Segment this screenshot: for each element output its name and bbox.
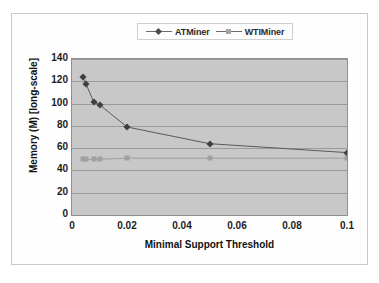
y-tick-label: 140 [42, 53, 68, 63]
x-tick-label: 0.08 [282, 220, 301, 231]
legend-entry-wtiminer[interactable]: WTIMiner [216, 27, 285, 37]
series-line-atminer [83, 77, 347, 153]
plot-area [71, 58, 348, 216]
y-tick-label: 40 [42, 164, 68, 174]
chart-legend: ATMiner WTIMiner [137, 23, 293, 40]
legend-label-atminer: ATMiner [175, 27, 210, 37]
data-point-wtiminer [83, 157, 88, 162]
data-point-wtiminer [207, 156, 212, 161]
data-point-wtiminer [92, 157, 97, 162]
data-point-wtiminer [125, 156, 130, 161]
x-axis-title: Minimal Support Threshold [71, 239, 348, 250]
series-line-wtiminer [83, 158, 347, 159]
y-tick-label: 20 [42, 187, 68, 197]
y-tick-label: 0 [42, 209, 68, 219]
legend-entry-atminer[interactable]: ATMiner [146, 27, 210, 37]
legend-marker-diamond-icon [146, 27, 172, 36]
x-tick-label: 0.02 [117, 220, 136, 231]
y-axis-tick-labels: 020406080100120140 [38, 58, 68, 216]
y-tick-label: 100 [42, 98, 68, 108]
y-tick-label: 60 [42, 142, 68, 152]
legend-label-wtiminer: WTIMiner [245, 27, 285, 37]
series-lines [72, 59, 347, 215]
y-tick-label: 80 [42, 120, 68, 130]
data-point-wtiminer [345, 156, 349, 161]
legend-marker-square-icon [216, 27, 242, 36]
chart-frame: ATMiner WTIMiner 020406080100120140 00.0… [11, 13, 368, 265]
x-tick-label: 0.04 [172, 220, 191, 231]
x-tick-label: 0 [69, 220, 75, 231]
y-tick-label: 120 [42, 75, 68, 85]
y-axis-title: Memory (M) [long-scale] [28, 46, 39, 186]
x-tick-label: 0.1 [340, 220, 354, 231]
gridline [72, 215, 347, 216]
data-point-wtiminer [97, 157, 102, 162]
x-tick-label: 0.06 [227, 220, 246, 231]
x-axis-tick-labels: 00.020.040.060.080.1 [71, 220, 348, 234]
